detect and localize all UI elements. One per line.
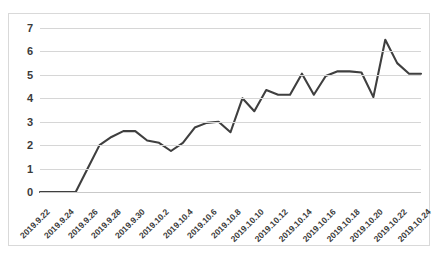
- gridline-7: [40, 28, 421, 29]
- gridline-1: [40, 169, 421, 170]
- x-axis-labels: 2019.9.222019.9.242019.9.262019.9.282019…: [40, 206, 421, 259]
- y-axis-label-4: 4: [27, 93, 33, 104]
- gridline-6: [40, 51, 421, 52]
- gridline-0: [40, 192, 421, 193]
- y-axis-label-7: 7: [27, 23, 33, 34]
- y-axis-label-0: 0: [27, 187, 33, 198]
- y-axis-label-6: 6: [27, 46, 33, 57]
- y-axis-label-2: 2: [27, 140, 33, 151]
- chart-frame: 01234567 2019.9.222019.9.242019.9.262019…: [8, 13, 430, 246]
- y-axis-label-1: 1: [27, 163, 33, 174]
- line-series: [40, 28, 421, 192]
- gridline-4: [40, 98, 421, 99]
- plot-wrap: 01234567 2019.9.222019.9.242019.9.262019…: [9, 14, 429, 245]
- y-axis-label-5: 5: [27, 69, 33, 80]
- y-axis-label-3: 3: [27, 116, 33, 127]
- gridline-5: [40, 75, 421, 76]
- plot-area: 01234567: [40, 28, 421, 192]
- gridline-3: [40, 122, 421, 123]
- gridline-2: [40, 145, 421, 146]
